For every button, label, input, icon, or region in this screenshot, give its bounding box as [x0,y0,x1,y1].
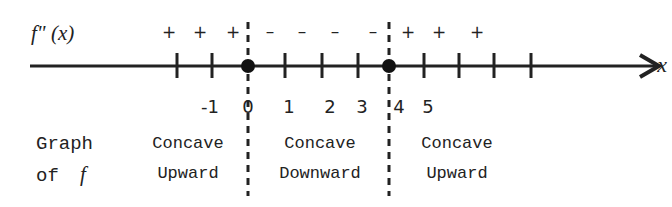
fpp-label: f" (x) [31,21,74,45]
sign-minus: – [266,21,275,41]
sign-plus: + [470,22,484,42]
sign-plus: + [162,22,176,42]
critical-point-dot-4 [382,59,396,73]
tick-label: 5 [422,96,433,117]
critical-point-dot-0 [241,59,255,73]
tick-label: 4 [393,96,404,117]
sign-chart-svg: f" (x) + + + – – – – + + + x [0,0,672,207]
sign-plus: + [193,22,207,42]
interval-3-line2: Upward [426,164,487,183]
tick-label: 2 [324,96,335,117]
sign-plus: + [401,22,415,42]
tick-label: -1 [201,96,219,117]
graph-label-f: f [80,162,89,186]
tick-labels: -1 0 1 2 3 4 5 [201,96,434,117]
interval-2-line1: Concave [284,134,355,153]
sign-minus: – [331,21,340,41]
concavity-sign-chart: f" (x) + + + – – – – + + + x [0,0,672,207]
tick-label: 0 [242,96,253,117]
interval-2-line2: Downward [279,164,361,183]
sign-plus: + [432,22,446,42]
graph-label-of: of [36,165,59,187]
sign-row: + + + – – – – + + + [162,21,484,42]
sign-minus: – [298,21,307,41]
interval-3-line1: Concave [421,134,492,153]
graph-label-line1: Graph [36,133,93,155]
sign-minus: – [369,21,378,41]
interval-1-line2: Upward [157,164,218,183]
axis-variable-label: x [656,52,667,77]
sign-plus: + [226,22,240,42]
concavity-labels: Concave Upward Concave Downward Concave … [152,134,492,183]
tick-label: 1 [283,96,294,117]
interval-1-line1: Concave [152,134,223,153]
tick-label: 3 [356,96,367,117]
